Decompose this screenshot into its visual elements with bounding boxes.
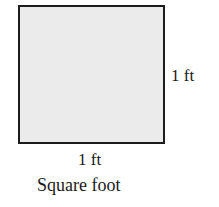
figure-caption: Square foot xyxy=(37,176,120,194)
side-length-label: 1 ft xyxy=(171,67,194,84)
square-foot-shape xyxy=(18,5,165,144)
bottom-length-label: 1 ft xyxy=(78,151,101,168)
